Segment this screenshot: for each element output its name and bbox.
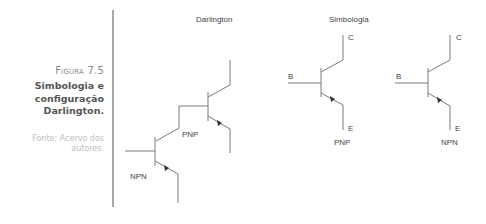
pnp-base-label: B [288, 72, 293, 81]
darlington-lower-label: NPN [130, 172, 147, 181]
npn-emitter-arrow-icon [437, 97, 442, 103]
darlington-lower-emitter-arrow-icon [164, 165, 169, 171]
npn-emitter-label: E [455, 124, 460, 133]
npn-base-label: B [396, 72, 401, 81]
npn-type-label: NPN [441, 138, 458, 147]
darlington-upper-transistor [208, 60, 230, 153]
transistor-diagram: Darlington PNP NPN Simbologia C B E PNP … [0, 0, 486, 224]
pnp-emitter-label: E [348, 124, 353, 133]
pnp-symbol [288, 35, 343, 130]
darlington-circuit [125, 60, 230, 203]
pnp-collector-label: C [348, 33, 354, 42]
darlington-lower-transistor [125, 137, 178, 203]
darlington-upper-emitter-arrow-icon [217, 120, 222, 126]
darlington-title: Darlington [196, 15, 232, 24]
pnp-type-label: PNP [334, 138, 350, 147]
npn-collector-label: C [456, 33, 462, 42]
symbology-title: Simbologia [329, 15, 369, 24]
pnp-emitter-arrow-icon [330, 96, 335, 102]
darlington-upper-label: PNP [182, 130, 198, 139]
npn-symbol [395, 35, 450, 130]
